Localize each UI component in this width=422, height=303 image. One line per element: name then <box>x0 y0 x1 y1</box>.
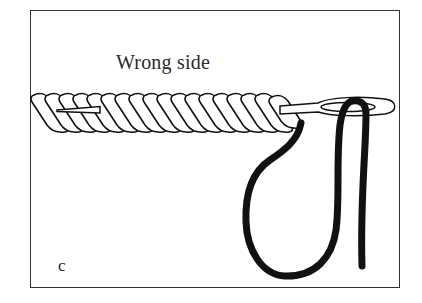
illustration <box>0 0 422 303</box>
twisted-cord-icon <box>31 94 303 133</box>
